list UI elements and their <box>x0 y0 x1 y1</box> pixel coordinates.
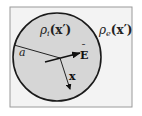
interior-density-label: ρi(x′) <box>39 23 71 38</box>
diagram-canvas: ρi(x′) ρe(x′) a ¯ E x <box>0 0 142 116</box>
exterior-density-label: ρe(x′) <box>98 23 132 38</box>
position-label: x <box>69 70 76 83</box>
radius-label: a <box>19 46 26 59</box>
sphere-field-diagram: ρi(x′) ρe(x′) a ¯ E x <box>0 0 142 116</box>
field-label: E <box>80 49 88 62</box>
